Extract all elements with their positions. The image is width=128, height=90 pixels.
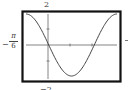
plot-canvas [0,0,128,90]
x-min-label: π 6 [9,33,18,50]
y-min-label: −2 [40,86,52,90]
x-max-label-fragment [125,40,128,41]
x-min-denominator: 6 [9,43,18,50]
x-min-sign: − [2,41,9,49]
y-max-label: 2 [44,1,49,9]
x-min-numerator: π [9,33,18,40]
